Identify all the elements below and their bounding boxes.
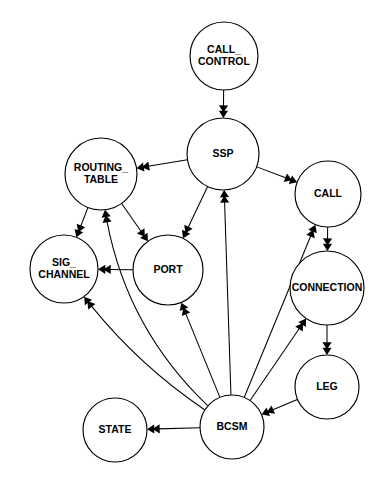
node-leg[interactable]: LEG bbox=[295, 355, 359, 419]
edge-ssp-to-port bbox=[188, 187, 207, 228]
arrowhead-leg-to-bcsm bbox=[262, 405, 275, 416]
node-sig_channel[interactable]: SIG_CHANNEL bbox=[30, 235, 98, 303]
diagram-canvas: CALL_CONTROLSSPROUTING_TABLECALLSIG_CHAN… bbox=[0, 0, 381, 484]
arrowhead-connection-to-leg bbox=[322, 342, 331, 355]
node-call_control[interactable]: CALL_CONTROL bbox=[190, 22, 258, 90]
arrowhead-ssp-to-routing_table bbox=[137, 162, 150, 172]
node-label-line: CONTROL bbox=[198, 55, 250, 67]
arrowhead-bcsm-to-sig_channel bbox=[84, 297, 95, 310]
arrowhead-ssp-to-port bbox=[182, 225, 193, 238]
node-label-line: SIG_ bbox=[52, 255, 76, 267]
arrowhead-routing_table-to-port bbox=[137, 228, 148, 241]
arrowhead-bcsm-to-state bbox=[147, 424, 160, 433]
arrowhead-bcsm-to-connection bbox=[295, 319, 306, 332]
edge-ssp-to-routing_table bbox=[148, 160, 187, 166]
node-label-state: STATE bbox=[99, 423, 132, 435]
node-label-line: CALL_ bbox=[207, 42, 241, 54]
arrowhead-routing_table-to-sig_channel bbox=[75, 224, 86, 237]
edge-bcsm-to-port bbox=[186, 313, 220, 397]
arrowhead-ssp-to-call bbox=[284, 173, 297, 184]
edge-leg-to-bcsm bbox=[272, 399, 297, 410]
node-ssp[interactable]: SSP bbox=[187, 118, 259, 190]
edge-routing_table-to-sig_channel bbox=[81, 208, 88, 227]
edge-ssp-to-call bbox=[257, 167, 286, 178]
arrowhead-bcsm-to-routing_table bbox=[102, 210, 112, 223]
edge-bcsm-to-sig_channel bbox=[91, 306, 204, 410]
arrowhead-bcsm-to-call bbox=[306, 225, 317, 238]
node-label-connection: CONNECTION bbox=[292, 281, 363, 293]
node-label-line: PORT bbox=[153, 263, 183, 275]
object-interaction-diagram: CALL_CONTROLSSPROUTING_TABLECALLSIG_CHAN… bbox=[0, 0, 381, 484]
node-state[interactable]: STATE bbox=[83, 398, 147, 462]
node-label-ssp: SSP bbox=[212, 147, 233, 159]
arrowhead-call-to-connection bbox=[323, 238, 332, 251]
arrowhead-bcsm-to-ssp bbox=[220, 190, 229, 203]
node-bcsm[interactable]: BCSM bbox=[200, 395, 264, 459]
node-label-line: LEG bbox=[316, 380, 338, 392]
node-connection[interactable]: CONNECTION bbox=[290, 251, 364, 325]
node-label-line: ROUTING_ bbox=[74, 160, 128, 172]
node-routing_table[interactable]: ROUTING_TABLE bbox=[65, 138, 137, 210]
node-label-line: BCSM bbox=[217, 420, 248, 432]
node-label-line: CALL bbox=[314, 187, 343, 199]
edge-routing_table-to-port bbox=[122, 204, 142, 232]
node-label-leg: LEG bbox=[316, 380, 338, 392]
node-label-port: PORT bbox=[153, 263, 183, 275]
node-label-bcsm: BCSM bbox=[217, 420, 248, 432]
node-label-line: TABLE bbox=[84, 173, 118, 185]
nodes-layer: CALL_CONTROLSSPROUTING_TABLECALLSIG_CHAN… bbox=[30, 22, 364, 462]
node-label-line: STATE bbox=[99, 423, 132, 435]
node-port[interactable]: PORT bbox=[133, 235, 203, 305]
edge-bcsm-to-state bbox=[159, 428, 200, 429]
node-label-line: CONNECTION bbox=[292, 281, 363, 293]
node-call[interactable]: CALL bbox=[295, 161, 361, 227]
node-label-line: CHANNEL bbox=[38, 268, 90, 280]
edge-bcsm-to-ssp bbox=[225, 202, 231, 395]
node-label-line: SSP bbox=[212, 147, 233, 159]
arrowhead-call_control-to-ssp bbox=[219, 105, 228, 118]
node-label-call: CALL bbox=[314, 187, 343, 199]
arrowhead-bcsm-to-port bbox=[180, 303, 191, 316]
arrowhead-port-to-sig_channel bbox=[98, 265, 111, 274]
